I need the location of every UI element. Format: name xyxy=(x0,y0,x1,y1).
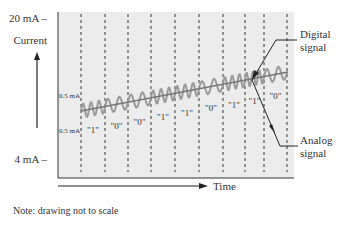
digital-label-2: signal xyxy=(300,41,326,53)
note-text: Note: drawing not to scale xyxy=(13,205,119,216)
diagram: "1""0""0""1""1""0""1""1""0" 20 mA – Curr… xyxy=(0,0,349,227)
digital-label-1: Digital xyxy=(300,28,331,40)
y-axis-label: Current xyxy=(13,34,47,46)
bit-label: "0" xyxy=(111,121,123,131)
analog-label-2: signal xyxy=(300,147,326,159)
up-arrow-icon xyxy=(34,52,40,60)
analog-label-1: Analog xyxy=(300,134,333,146)
amp-top-label: 0.5 mA xyxy=(59,92,80,100)
bit-label: "0" xyxy=(134,117,146,127)
y-bottom-label: 4 mA – xyxy=(15,153,48,165)
bit-label: "0" xyxy=(205,103,217,113)
bit-label: "1" xyxy=(157,112,169,122)
amp-bottom-label: 0.5 mA xyxy=(59,127,80,135)
bit-label: "0" xyxy=(270,91,282,101)
y-top-label: 20 mA – xyxy=(9,12,47,24)
bit-label: "1" xyxy=(181,108,193,118)
bit-label: "1" xyxy=(228,100,240,110)
bit-label: "1" xyxy=(87,125,99,135)
right-arrow-icon xyxy=(199,183,208,189)
x-axis-label: Time xyxy=(213,180,236,192)
